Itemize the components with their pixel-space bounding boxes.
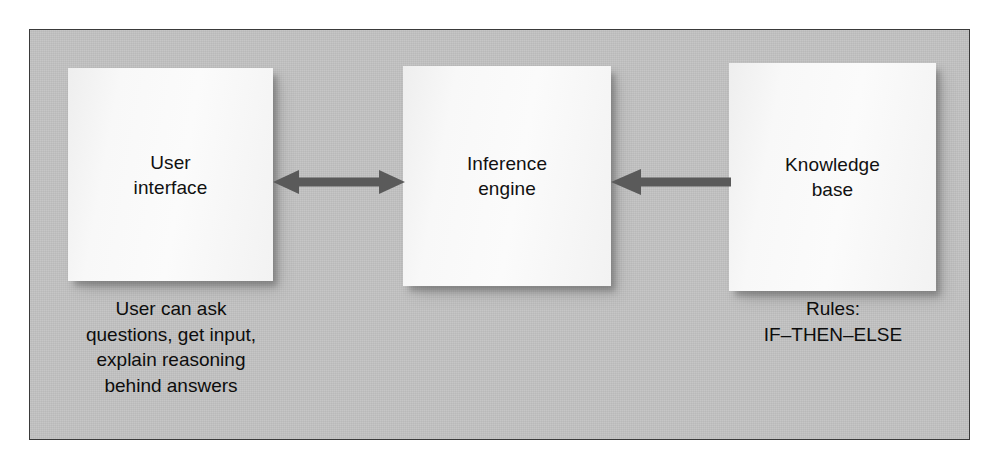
node-inference-engine: Inference engine bbox=[403, 66, 611, 286]
node-user-interface-label: User interface bbox=[134, 150, 208, 200]
caption-user-interface: User can ask questions, get input, expla… bbox=[40, 296, 302, 398]
node-knowledge-base: Knowledge base bbox=[729, 63, 936, 291]
node-inference-engine-label: Inference engine bbox=[467, 151, 547, 201]
node-user-interface: User interface bbox=[68, 68, 273, 281]
diagram-panel: User interface Inference engine Knowledg… bbox=[29, 29, 970, 440]
arrow-bidirectional-ui-inference-icon bbox=[273, 163, 405, 201]
caption-knowledge-base: Rules: IF–THEN–ELSE bbox=[702, 296, 964, 347]
node-knowledge-base-label: Knowledge base bbox=[785, 152, 880, 202]
arrow-left-kb-inference-icon bbox=[611, 163, 731, 201]
